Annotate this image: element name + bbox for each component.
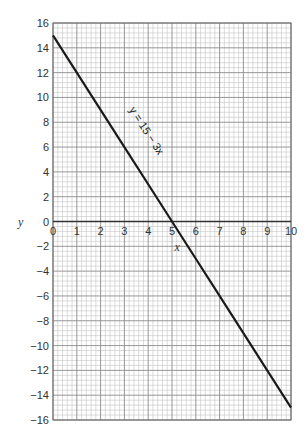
- x-tick-label: 7: [217, 225, 223, 237]
- line-chart: 1614121086420−2−4−6−8−10−12−14−16 012345…: [0, 0, 308, 445]
- x-tick-label: 3: [121, 225, 127, 237]
- x-tick-label: 2: [98, 225, 104, 237]
- x-tick-label: 0: [50, 225, 56, 237]
- y-tick-label: 2: [43, 191, 49, 203]
- y-tick-label: −4: [36, 265, 49, 277]
- y-tick-label: 8: [43, 116, 49, 128]
- x-tick-label: 6: [193, 225, 199, 237]
- y-tick-label: −8: [36, 315, 49, 327]
- x-axis-label: x: [173, 240, 180, 254]
- y-tick-label: −6: [36, 290, 49, 302]
- y-tick-label: 12: [37, 67, 49, 79]
- y-tick-label: 16: [37, 17, 49, 29]
- y-tick-label: −2: [36, 240, 49, 252]
- y-tick-label: 6: [43, 141, 49, 153]
- y-tick-label: −14: [30, 389, 49, 401]
- x-tick-label: 8: [240, 225, 246, 237]
- y-tick-label: 10: [37, 91, 49, 103]
- y-axis-label: y: [17, 215, 24, 229]
- y-tick-label: 0: [43, 216, 49, 228]
- y-tick-label: 4: [43, 166, 49, 178]
- y-tick-label: 14: [37, 42, 49, 54]
- y-tick-label: −12: [30, 364, 49, 376]
- x-tick-label: 9: [264, 225, 270, 237]
- y-tick-label: −10: [30, 340, 49, 352]
- x-tick-label: 10: [285, 225, 297, 237]
- y-tick-label: −16: [30, 414, 49, 426]
- x-tick-label: 4: [145, 225, 151, 237]
- x-tick-label: 1: [74, 225, 80, 237]
- y-tick-labels: 1614121086420−2−4−6−8−10−12−14−16: [30, 17, 49, 426]
